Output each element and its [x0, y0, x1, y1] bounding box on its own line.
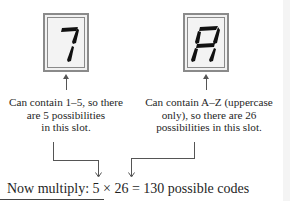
caption-line: Can contain 1–5, so there [2, 96, 130, 109]
seven-segment-1-icon [45, 15, 91, 74]
page-edge [283, 0, 290, 201]
connector-line [53, 142, 54, 161]
multiplication-equation: Now multiply: 5 × 26 = 130 possible code… [7, 181, 249, 197]
caption-line: in this slot. [2, 121, 130, 134]
connector-line [131, 158, 195, 159]
caption-line: Can contain A–Z (uppercase [139, 96, 279, 109]
arrow-up-icon [66, 78, 67, 90]
slot-1-caption: Can contain 1–5, so there are 5 possibil… [2, 96, 130, 134]
connector-line [194, 142, 195, 159]
caption-line: possibilities in this slot. [139, 121, 279, 134]
digit-slot-1 [43, 13, 89, 72]
divider-rule [0, 199, 104, 200]
seven-segment-a-icon [185, 15, 231, 74]
letter-slot-2 [183, 13, 229, 72]
arrow-up-icon [206, 78, 207, 90]
connector-line [53, 160, 99, 161]
arrow-down-icon [95, 172, 103, 178]
arrow-down-icon [128, 172, 136, 178]
slot-2-caption: Can contain A–Z (uppercase only), so the… [139, 96, 279, 134]
caption-line: are 5 possibilities [2, 109, 130, 122]
caption-line: only), so there are 26 [139, 109, 279, 122]
